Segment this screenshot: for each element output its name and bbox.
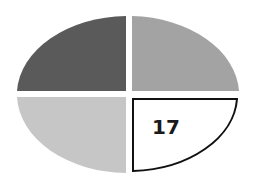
quadrant-top-left <box>17 16 126 91</box>
quadrant-ellipse-diagram: 17 <box>0 0 253 188</box>
quadrant-bottom-right <box>133 99 237 171</box>
quadrant-bottom-left <box>17 97 126 173</box>
quadrant-label: 17 <box>152 115 180 139</box>
quadrant-top-right <box>132 16 239 91</box>
